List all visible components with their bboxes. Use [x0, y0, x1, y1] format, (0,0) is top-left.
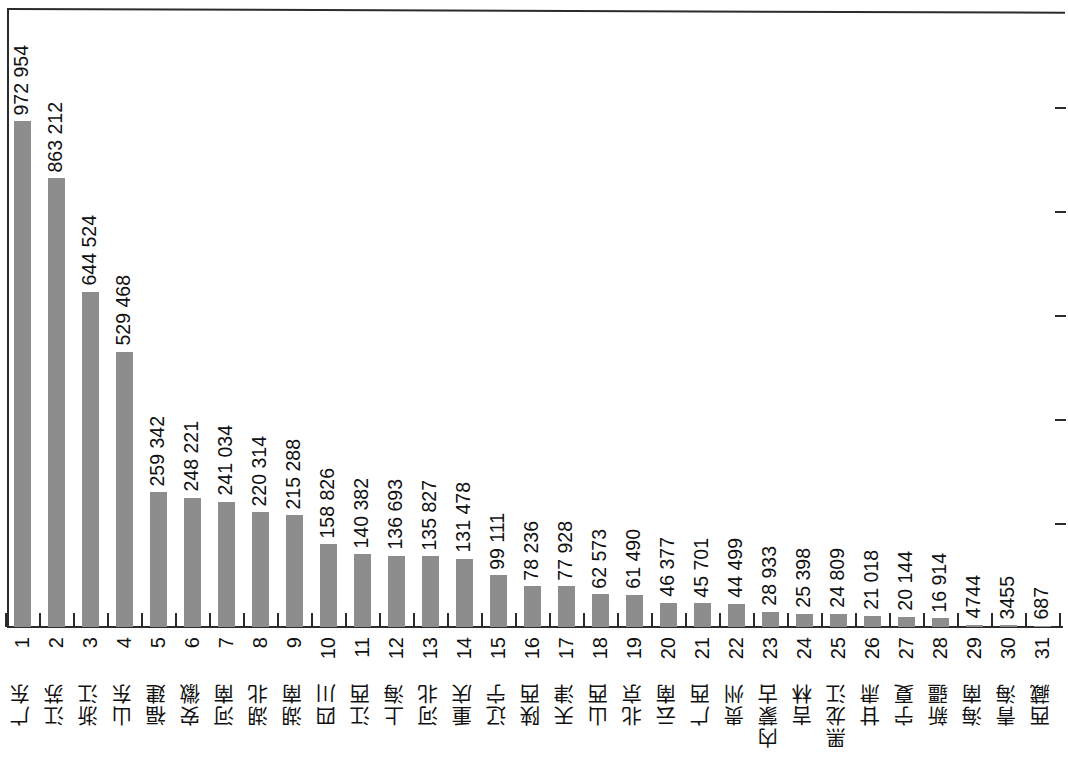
x-axis-rank-label: 19: [624, 637, 644, 659]
x-axis-category-label: 海南: [964, 682, 985, 726]
x-axis-label-slot: 26甘肃: [855, 627, 889, 770]
x-axis-tick: [923, 613, 925, 627]
bar[interactable]: [660, 603, 677, 627]
x-axis-tick: [413, 613, 415, 627]
x-axis-tick: [379, 613, 381, 627]
bar-slot: 158 826: [320, 0, 337, 627]
bar[interactable]: [592, 594, 609, 627]
bar[interactable]: [354, 554, 371, 627]
bar-value-label: 61 490: [624, 529, 644, 589]
x-axis-rank-label: 7: [216, 637, 236, 648]
x-axis-label-slot: 15辽宁: [481, 627, 515, 770]
bar-slot: 25 398: [796, 0, 813, 627]
x-axis-tick: [515, 613, 517, 627]
bar-value-label: 136 693: [386, 479, 406, 550]
x-axis-category-label: 甘肃: [862, 682, 883, 726]
x-axis-tick: [583, 613, 585, 627]
bar[interactable]: [150, 492, 167, 627]
x-axis-tick: [889, 613, 891, 627]
bar[interactable]: [830, 614, 847, 627]
bar[interactable]: [762, 612, 779, 627]
x-axis-category-label: 贵州: [726, 682, 747, 726]
bar-value-label: 16 914: [930, 553, 950, 613]
bar-slot: 972 954: [14, 0, 31, 627]
bar-value-label: 259 342: [148, 416, 168, 487]
bar-value-label: 140 382: [352, 478, 372, 549]
bar-value-label: 20 144: [896, 551, 916, 611]
x-axis-tick: [991, 613, 993, 627]
bar[interactable]: [422, 556, 439, 627]
bar[interactable]: [320, 544, 337, 627]
bar[interactable]: [252, 512, 269, 627]
x-axis-label-slot: 24吉林: [787, 627, 821, 770]
x-axis-rank-label: 10: [318, 637, 338, 659]
x-axis-category-label: 江西: [352, 682, 373, 726]
bar[interactable]: [524, 586, 541, 627]
x-axis-category-label: 河南: [216, 682, 237, 726]
x-axis-category-label: 西藏: [1032, 682, 1053, 726]
x-axis-tick: [1059, 613, 1061, 627]
x-axis-category-label: 吉林: [794, 682, 815, 726]
x-axis-tick: [855, 613, 857, 627]
bar-value-label: 241 034: [216, 425, 236, 496]
bar[interactable]: [490, 575, 507, 627]
x-axis-label-slot: 21广西: [685, 627, 719, 770]
bar-slot: 644 524: [82, 0, 99, 627]
x-axis-label-slot: 10四川: [311, 627, 345, 770]
x-axis-tick: [345, 613, 347, 627]
x-axis-rank-label: 11: [352, 637, 372, 658]
x-axis-label-slot: 30青海: [991, 627, 1025, 770]
bar[interactable]: [456, 559, 473, 627]
bar[interactable]: [796, 614, 813, 627]
bar[interactable]: [558, 586, 575, 627]
bar-slot: 529 468: [116, 0, 133, 627]
bar[interactable]: [82, 292, 99, 627]
bar[interactable]: [218, 502, 235, 627]
x-axis-category-label: 北京: [624, 682, 645, 726]
bar[interactable]: [116, 352, 133, 627]
x-axis-rank-label: 24: [794, 637, 814, 659]
x-axis-category-label: 青海: [998, 682, 1019, 726]
x-axis-category-label: 辽宁: [488, 682, 509, 726]
bar-value-label: 248 221: [182, 421, 202, 492]
x-axis-rank-label: 29: [964, 637, 984, 659]
x-axis-category-label: 广东: [12, 682, 33, 726]
chart-page: 972 954863 212644 524529 468259 342248 2…: [0, 0, 1068, 770]
x-axis-label-slot: 3浙江: [73, 627, 107, 770]
x-axis-tick: [209, 613, 211, 627]
x-axis-category-label: 黑龙江: [828, 682, 849, 748]
x-axis-category-label: 江苏: [46, 682, 67, 726]
bar[interactable]: [388, 556, 405, 627]
bar[interactable]: [864, 616, 881, 627]
bar-slot: 45 701: [694, 0, 711, 627]
x-axis-rank-label: 25: [828, 637, 848, 659]
bar[interactable]: [728, 604, 745, 627]
x-axis-label-slot: 9湖南: [277, 627, 311, 770]
bar-value-label: 46 377: [658, 537, 678, 597]
bar[interactable]: [286, 515, 303, 627]
x-axis-label-group: 1广东2江苏3浙江4山东5福建6安徽7河南8湖北9湖南10四川11江西12上海1…: [0, 627, 1068, 770]
x-axis-category-label: 陕西: [522, 682, 543, 726]
x-axis-rank-label: 28: [930, 637, 950, 659]
x-axis-rank-label: 1: [12, 637, 32, 648]
x-axis-category-label: 新疆: [930, 682, 951, 726]
bar[interactable]: [14, 121, 31, 627]
bar-slot: 77 928: [558, 0, 575, 627]
bar[interactable]: [932, 618, 949, 627]
bar-value-label: 644 524: [80, 215, 100, 286]
bar[interactable]: [898, 617, 915, 627]
bar-slot: 248 221: [184, 0, 201, 627]
plot-area: 972 954863 212644 524529 468259 342248 2…: [0, 0, 1068, 627]
x-axis-label-slot: 5福建: [141, 627, 175, 770]
bar-slot: 863 212: [48, 0, 65, 627]
bar-value-label: 4744: [964, 575, 984, 618]
bar-value-label: 44 499: [726, 538, 746, 598]
x-axis-tick: [651, 613, 653, 627]
bar-value-label: 220 314: [250, 436, 270, 507]
bar[interactable]: [626, 595, 643, 627]
bar[interactable]: [48, 178, 65, 627]
bar-slot: 241 034: [218, 0, 235, 627]
bar[interactable]: [184, 498, 201, 627]
bar[interactable]: [694, 603, 711, 627]
bar-value-label: 863 212: [46, 102, 66, 173]
